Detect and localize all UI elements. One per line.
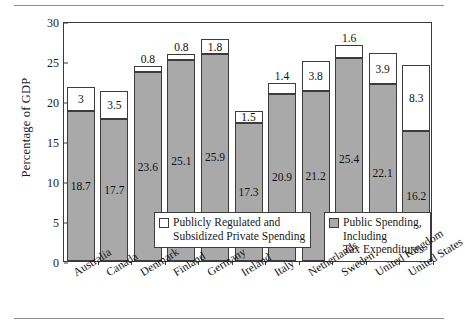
bar-segment-private-spending[interactable]: 1.5 xyxy=(235,111,263,123)
gray-square-swatch-icon xyxy=(329,218,339,228)
bar-value-label-private: 1.4 xyxy=(269,70,295,82)
bar-segment-private-spending[interactable]: 3.9 xyxy=(369,53,397,84)
y-tick-label: 15 xyxy=(47,136,59,151)
bar-segment-private-spending[interactable]: 1.6 xyxy=(335,45,363,58)
bar-value-label-public: 23.6 xyxy=(135,161,161,173)
y-tick-label: 5 xyxy=(53,216,59,231)
bar-value-label-public: 16.2 xyxy=(403,190,429,202)
bar-value-label-public: 25.4 xyxy=(336,153,362,165)
bar-value-label-private: 3.9 xyxy=(370,63,396,75)
white-square-swatch-icon xyxy=(159,218,169,228)
bar-value-label-private: 1.5 xyxy=(236,111,262,123)
y-tick-label: 10 xyxy=(47,176,59,191)
legend-label-private-spending: Publicly Regulated and Subsidized Privat… xyxy=(173,216,305,243)
y-tick-label: 30 xyxy=(47,16,59,31)
bar-segment-private-spending[interactable]: 3 xyxy=(67,87,95,111)
bar-segment-private-spending[interactable]: 0.8 xyxy=(167,54,195,60)
y-tick-label: 20 xyxy=(47,96,59,111)
bar-segment-public-spending[interactable]: 17.7 xyxy=(100,119,128,261)
y-axis-title: Percentage of GDP xyxy=(19,18,34,238)
bar-segment-private-spending[interactable]: 8.3 xyxy=(402,65,430,131)
plot-area: 051015202530 18.7317.73.523.60.825.10.82… xyxy=(63,22,432,262)
bar-value-label-private: 3 xyxy=(68,93,94,105)
bar-value-label-private: 1.8 xyxy=(202,41,228,53)
bar-value-label-public: 18.7 xyxy=(68,180,94,192)
y-tick-mark xyxy=(64,63,68,64)
legend-item-private-spending: Publicly Regulated and Subsidized Privat… xyxy=(154,212,311,248)
bar-value-label-public: 17.7 xyxy=(101,184,127,196)
bar-segment-private-spending[interactable]: 3.8 xyxy=(302,61,330,91)
bar-value-label-public: 25.9 xyxy=(202,151,228,163)
bar-segment-private-spending[interactable]: 0.8 xyxy=(134,66,162,72)
x-tick-mark xyxy=(299,261,300,265)
bar-value-label-public: 25.1 xyxy=(168,155,194,167)
bar-value-label-private: 1.6 xyxy=(336,32,362,44)
bar-value-label-private: 0.8 xyxy=(135,53,161,65)
y-tick-mark xyxy=(64,263,68,264)
y-tick-label: 25 xyxy=(47,56,59,71)
bar-segment-private-spending[interactable]: 3.5 xyxy=(100,91,128,119)
bar-value-label-public: 21.2 xyxy=(303,170,329,182)
bar-value-label-private: 0.8 xyxy=(168,41,194,53)
bar-segment-public-spending[interactable]: 18.7 xyxy=(67,111,95,261)
y-tick-mark xyxy=(64,23,68,24)
bar-group[interactable]: 18.73 xyxy=(67,87,95,261)
bar-group[interactable]: 17.73.5 xyxy=(100,91,128,261)
bar-value-label-public: 20.9 xyxy=(269,171,295,183)
bar-value-label-private: 3.8 xyxy=(303,70,329,82)
bar-value-label-public: 17.3 xyxy=(236,186,262,198)
bar-value-label-public: 22.1 xyxy=(370,167,396,179)
bar-segment-private-spending[interactable]: 1.8 xyxy=(201,39,229,53)
bar-value-label-private: 3.5 xyxy=(101,99,127,111)
bar-value-label-private: 8.3 xyxy=(403,92,429,104)
y-tick-label: 0 xyxy=(53,256,59,271)
bar-segment-private-spending[interactable]: 1.4 xyxy=(268,83,296,94)
